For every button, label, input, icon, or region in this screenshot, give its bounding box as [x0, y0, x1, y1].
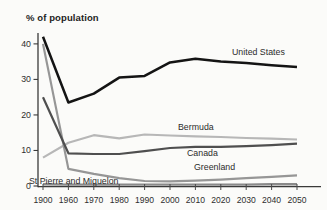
series-line-canada [43, 97, 297, 154]
y-tick-label: 30 [21, 74, 31, 84]
x-tick-label: 2050 [287, 195, 306, 205]
x-tick-label: 1980 [110, 195, 129, 205]
series-label-bermuda: Bermuda [178, 122, 214, 132]
series-label-united-states: United States [232, 47, 285, 57]
y-tick-label: 10 [21, 145, 31, 155]
x-tick-label: 1960 [59, 195, 78, 205]
x-tick-label: 1990 [135, 195, 154, 205]
x-tick-label: 2000 [160, 195, 179, 205]
series-label-canada: Canada [187, 148, 218, 158]
x-tick-label: 2010 [186, 195, 205, 205]
x-tick-label: 1970 [84, 195, 103, 205]
y-tick-label: 40 [21, 39, 31, 49]
x-tick-label: 2020 [211, 195, 230, 205]
series-label-st-pierre-and-miquelon: St Pierre and Miquelon [29, 176, 119, 186]
x-tick-label: 1900 [33, 195, 52, 205]
x-tick-label: 2030 [237, 195, 256, 205]
y-tick-label: 20 [21, 110, 31, 120]
x-tick-label: 2040 [262, 195, 281, 205]
plot-area: 0102030401900196019701980199020002010202… [0, 0, 327, 210]
population-line-chart: % of population 010203040190019601970198… [0, 0, 327, 210]
series-label-greenland: Greenland [194, 162, 235, 172]
